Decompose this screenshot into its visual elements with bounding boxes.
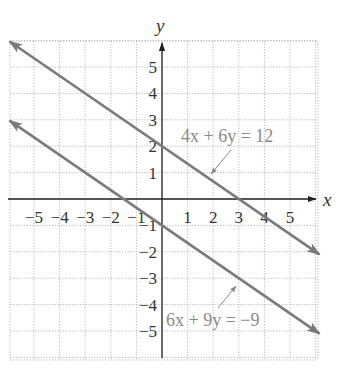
y-tick-label: 4 [149,84,158,103]
y-tick-label: 1 [149,164,158,183]
y-tick-label: 5 [149,58,158,77]
annotation-arrow-1 [211,150,231,174]
plotted-lines [10,41,320,333]
y-tick-label: −5 [139,322,157,341]
y-tick-label: −4 [139,296,158,315]
annotation-arrow-2 [218,286,236,308]
x-tick-label: −2 [102,208,120,227]
equation-label-1: 4x + 6y = 12 [181,126,273,146]
x-tick-label: −5 [25,208,43,227]
grid [10,41,318,360]
equation-label-2: 6x + 9y = −9 [166,310,259,330]
x-tick-label: −3 [76,208,94,227]
x-tick-label: 2 [209,208,218,227]
coordinate-plane: xy −5−4−3−2−11234554321−1−2−3−4−5 4x + 6… [0,0,343,370]
x-tick-label: 1 [183,208,192,227]
x-tick-label: −4 [51,208,70,227]
y-tick-label: −3 [139,269,157,288]
y-tick-label: −2 [139,243,157,262]
y-tick-label: 3 [149,111,158,130]
axes: xy [8,15,332,358]
x-tick-label: 3 [235,208,244,227]
x-axis-label: x [322,189,332,210]
annotations: 4x + 6y = 126x + 9y = −9 [166,126,273,330]
x-tick-label: 5 [286,208,295,227]
y-axis-label: y [154,15,165,36]
line-2 [10,121,320,334]
